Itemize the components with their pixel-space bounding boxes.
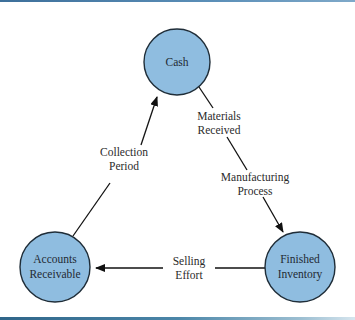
node-finished-inventory-label: Finished Inventory <box>278 252 323 282</box>
node-cash-label: Cash <box>166 55 189 70</box>
node-accounts-receivable-line1: Accounts <box>29 252 80 267</box>
edge-label-materials-received: Materials Received <box>194 109 244 137</box>
edge-label-collection-period: Collection Period <box>94 145 154 173</box>
edge-label-manufacturing-process: Manufacturing Process <box>217 170 293 198</box>
collection-line2: Period <box>94 159 154 173</box>
node-finished-inventory-line2: Inventory <box>278 267 323 282</box>
edge-label-selling-effort: Selling Effort <box>164 254 214 282</box>
edge-materials-mid <box>227 137 247 170</box>
materials-line1: Materials <box>194 109 244 123</box>
manufacturing-line2: Process <box>217 184 293 198</box>
node-accounts-receivable-label: Accounts Receivable <box>29 252 80 282</box>
edge-manufacturing-lower <box>263 197 283 232</box>
node-cash-text: Cash <box>166 55 189 70</box>
manufacturing-line1: Manufacturing <box>217 170 293 184</box>
node-finished-inventory-line1: Finished <box>278 252 323 267</box>
edge-materials-upper <box>197 84 213 108</box>
selling-line1: Selling <box>164 254 214 268</box>
node-accounts-receivable-line2: Receivable <box>29 267 80 282</box>
selling-line2: Effort <box>164 268 214 282</box>
materials-line2: Received <box>194 123 244 137</box>
edge-collection-lower <box>73 183 110 236</box>
edge-collection-upper <box>141 97 157 145</box>
collection-line1: Collection <box>94 145 154 159</box>
